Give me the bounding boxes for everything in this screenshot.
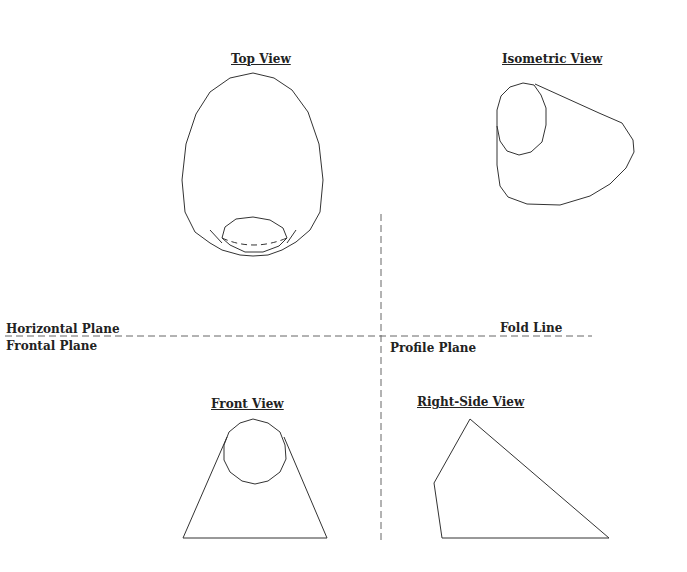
frontal-plane-label: Frontal Plane — [6, 339, 97, 353]
top-view-title: Top View — [231, 52, 291, 66]
right-side-view-drawing — [434, 419, 609, 538]
front-view-drawing — [183, 419, 327, 538]
isometric-view-drawing — [497, 83, 634, 205]
right-side-view-title: Right-Side View — [417, 395, 524, 409]
fold-lines — [5, 214, 592, 542]
top-view-drawing — [182, 73, 323, 256]
fold-line-label: Fold Line — [500, 321, 562, 335]
orthographic-drawing — [0, 0, 687, 572]
horizontal-plane-label: Horizontal Plane — [6, 322, 120, 336]
isometric-view-title: Isometric View — [502, 52, 602, 66]
front-view-title: Front View — [211, 397, 284, 411]
profile-plane-label: Profile Plane — [390, 341, 476, 355]
